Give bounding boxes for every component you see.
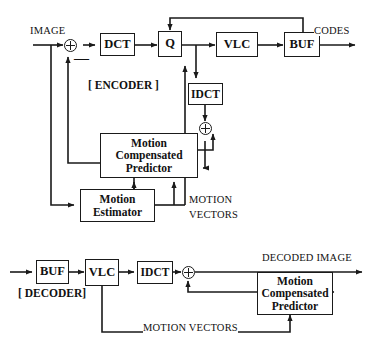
encoder-output-label: CODES <box>314 25 349 36</box>
encoder-motion-compensated-predictor-block: Motion Compensated Predictor <box>100 133 198 178</box>
wire-image-to-me <box>51 45 74 205</box>
decoder-vlc-block: VLC <box>85 259 119 286</box>
subtract-sign-label: — <box>74 50 89 67</box>
encoder-motion-estimator-block: Motion Estimator <box>80 189 155 222</box>
decoder-mcp-line3: Predictor <box>272 300 318 312</box>
wire-dec-mcp-to-sum <box>188 281 257 292</box>
encoder-me-line1: Motion <box>100 193 136 205</box>
decoder-mcp-line2: Compensated <box>261 287 328 299</box>
wire-sum-to-mcp <box>203 141 205 168</box>
encoder-motion-vectors-label-line1: MOTION <box>189 194 232 205</box>
encoder-q-label: Q <box>165 37 175 51</box>
encoder-vlc-block: VLC <box>216 32 258 57</box>
decoder-output-label: DECODED IMAGE <box>262 252 352 263</box>
encoder-q-block: Q <box>158 31 182 57</box>
codec-block-diagram: DCT Q VLC BUF IDCT Motion Compensated Pr… <box>0 0 372 353</box>
encoder-input-label: IMAGE <box>30 25 65 36</box>
decoder-section-label: [ DECODER] <box>18 287 86 299</box>
encoder-idct-label: IDCT <box>191 88 220 100</box>
encoder-mcp-line3: Predictor <box>126 162 172 174</box>
encoder-reconstruction-sum <box>199 122 212 135</box>
decoder-mcp-line1: Motion <box>277 275 313 287</box>
decoder-buf-block: BUF <box>36 260 69 284</box>
encoder-buf-label: BUF <box>290 38 315 52</box>
encoder-mcp-line1: Motion <box>131 137 167 149</box>
encoder-idct-block: IDCT <box>188 83 223 105</box>
decoder-vlc-label: VLC <box>89 266 115 280</box>
decoder-motion-compensated-predictor-block: Motion Compensated Predictor <box>257 272 333 315</box>
encoder-dct-label: DCT <box>104 38 130 52</box>
encoder-summing-junction <box>64 39 77 52</box>
encoder-motion-vectors-label-line2: VECTORS <box>189 209 238 220</box>
encoder-mcp-line2: Compensated <box>115 149 182 161</box>
encoder-dct-block: DCT <box>100 33 135 56</box>
encoder-me-line2: Estimator <box>93 206 142 218</box>
decoder-idct-block: IDCT <box>137 261 173 284</box>
decoder-motion-vectors-label: MOTION VECTORS <box>143 322 238 333</box>
wire-buf-feedback-to-q <box>170 18 303 33</box>
wire-mcp-to-subtractor <box>68 57 100 163</box>
decoder-buf-label: BUF <box>40 265 65 279</box>
encoder-section-label: [ ENCODER ] <box>88 79 159 91</box>
encoder-vlc-label: VLC <box>224 38 250 52</box>
decoder-idct-label: IDCT <box>141 266 170 278</box>
decoder-summing-junction <box>182 266 195 279</box>
